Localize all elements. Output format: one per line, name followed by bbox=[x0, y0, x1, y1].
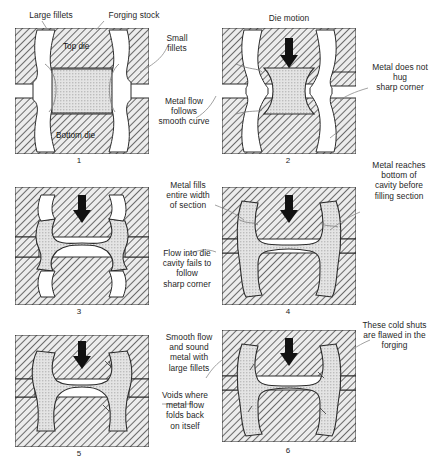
annotation-metal-fills-width-line-1: Metal fills bbox=[155, 180, 221, 190]
annotation-metal-flow-smooth: Metal flow follows smooth curve bbox=[148, 96, 220, 127]
annotation-forging-stock: Forging stock bbox=[93, 10, 175, 20]
annotation-metal-reaches-bottom: Metal reaches bottom of cavity before fi… bbox=[362, 160, 436, 201]
annotation-voids: Voids where metal flow folds back on its… bbox=[152, 390, 218, 431]
annotation-metal-does-not-hug: Metal does not hug sharp corner bbox=[362, 62, 437, 93]
annotation-metal-flow-smooth-line-3: smooth curve bbox=[148, 116, 220, 126]
panel-1-top-die-label: Top die bbox=[63, 42, 89, 51]
annotation-smooth-flow-sound-metal-line-4: large fillets bbox=[155, 363, 223, 373]
panel-3 bbox=[15, 187, 149, 305]
panel-5-number: 5 bbox=[72, 449, 86, 458]
annotation-cold-shuts-line-1: These cold shuts bbox=[352, 320, 437, 330]
annotation-flow-fails-corner-line-1: Flow into die bbox=[152, 248, 222, 258]
annotation-smooth-flow-sound-metal-line-2: and sound bbox=[155, 342, 223, 352]
figure-canvas: Top die Bottom die 1 2 bbox=[0, 0, 437, 470]
annotation-metal-fills-width-line-2: entire width bbox=[155, 190, 221, 200]
annotation-small-fillets: Small fillets bbox=[155, 33, 199, 53]
annotation-flow-fails-corner-line-4: sharp corner bbox=[152, 279, 222, 289]
annotation-metal-fills-width: Metal fills entire width of section bbox=[155, 180, 221, 211]
panel-4-number: 4 bbox=[281, 307, 295, 316]
panel-1-bottom-die-label: Bottom die bbox=[56, 131, 95, 140]
annotation-voids-line-4: on itself bbox=[152, 421, 218, 431]
annotation-die-motion: Die motion bbox=[252, 13, 326, 23]
annotation-smooth-flow-sound-metal-line-1: Smooth flow bbox=[155, 332, 223, 342]
annotation-cold-shuts-line-3: forging bbox=[352, 340, 437, 350]
annotation-metal-reaches-bottom-line-3: cavity before bbox=[362, 180, 436, 190]
annotation-metal-does-not-hug-line-3: sharp corner bbox=[362, 82, 437, 92]
panel-1-number: 1 bbox=[72, 156, 86, 165]
panel-6 bbox=[222, 330, 356, 442]
annotation-cold-shuts: These cold shuts are flawed in the forgi… bbox=[352, 320, 437, 351]
annotation-metal-fills-width-line-3: of section bbox=[155, 200, 221, 210]
annotation-metal-flow-smooth-line-1: Metal flow bbox=[148, 96, 220, 106]
panel-6-number: 6 bbox=[281, 446, 295, 455]
annotation-metal-reaches-bottom-line-4: filling section bbox=[362, 191, 436, 201]
annotation-voids-line-2: metal flow bbox=[152, 400, 218, 410]
annotation-flow-fails-corner-line-3: follow bbox=[152, 268, 222, 278]
annotation-small-fillets-line-1: Small bbox=[155, 33, 199, 43]
panel-4 bbox=[222, 187, 356, 305]
annotation-metal-flow-smooth-line-2: follows bbox=[148, 106, 220, 116]
panel-1: Top die Bottom die bbox=[15, 28, 149, 154]
panel-3-number: 3 bbox=[72, 307, 86, 316]
panel-2-number: 2 bbox=[281, 156, 295, 165]
panel-5 bbox=[15, 335, 149, 447]
annotation-smooth-flow-sound-metal-line-3: metal with bbox=[155, 352, 223, 362]
annotation-flow-fails-corner-line-2: cavity fails to bbox=[152, 258, 222, 268]
annotation-flow-fails-corner: Flow into die cavity fails to follow sha… bbox=[152, 248, 222, 289]
annotation-metal-does-not-hug-line-2: hug bbox=[362, 72, 437, 82]
annotation-metal-reaches-bottom-line-2: bottom of bbox=[362, 170, 436, 180]
annotation-smooth-flow-sound-metal: Smooth flow and sound metal with large f… bbox=[155, 332, 223, 373]
annotation-metal-reaches-bottom-line-1: Metal reaches bbox=[362, 160, 436, 170]
annotation-metal-does-not-hug-line-1: Metal does not bbox=[362, 62, 437, 72]
panel-2 bbox=[222, 28, 356, 154]
annotation-voids-line-3: folds back bbox=[152, 410, 218, 420]
annotation-voids-line-1: Voids where bbox=[152, 390, 218, 400]
annotation-large-fillets: Large fillets bbox=[12, 10, 90, 20]
annotation-small-fillets-line-2: fillets bbox=[155, 43, 199, 53]
annotation-cold-shuts-line-2: are flawed in the bbox=[352, 330, 437, 340]
